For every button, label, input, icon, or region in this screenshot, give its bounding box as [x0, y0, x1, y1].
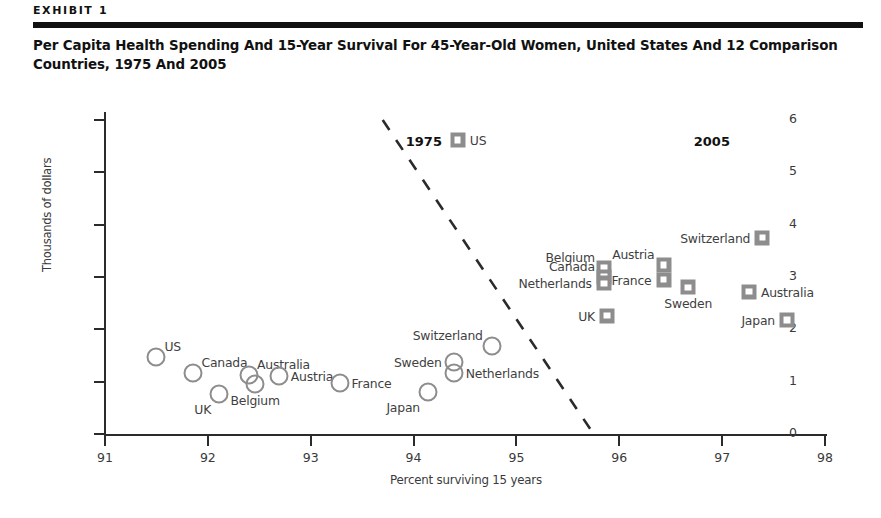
y-tick-0	[94, 433, 105, 435]
x-tick-92	[207, 436, 209, 446]
data-label-1975-austria: Austria	[291, 369, 333, 384]
x-axis-title: Percent surviving 15 years	[390, 473, 542, 487]
data-label-1975-japan: Japan	[386, 400, 420, 415]
x-tick-98	[824, 436, 826, 446]
x-tick-label-96: 96	[611, 450, 627, 465]
data-point-1975-switzerland[interactable]	[482, 336, 501, 355]
data-point-1975-canada[interactable]	[184, 363, 203, 382]
x-tick-label-91: 91	[97, 450, 113, 465]
data-label-2005-us: US	[470, 132, 487, 147]
data-label-1975-uk: UK	[194, 401, 211, 416]
data-label-1975-belgium: Belgium	[230, 393, 279, 408]
data-point-2005-france[interactable]	[656, 272, 671, 287]
y-tick-4	[94, 224, 105, 226]
data-label-1975-netherlands: Netherlands	[466, 366, 539, 381]
data-point-2005-japan[interactable]	[779, 312, 794, 327]
y-tick-5	[94, 171, 105, 173]
x-tick-95	[515, 436, 517, 446]
data-label-2005-canada: Canada	[549, 259, 595, 274]
y-tick-1	[94, 381, 105, 383]
data-point-2005-switzerland[interactable]	[755, 230, 770, 245]
x-tick-label-98: 98	[817, 450, 833, 465]
data-label-2005-netherlands: Netherlands	[519, 276, 592, 291]
data-label-2005-australia: Australia	[761, 284, 814, 299]
x-tick-label-97: 97	[714, 450, 730, 465]
x-tick-97	[721, 436, 723, 446]
data-point-2005-netherlands[interactable]	[596, 276, 611, 291]
data-point-1975-uk[interactable]	[210, 384, 229, 403]
x-tick-label-94: 94	[406, 450, 422, 465]
data-point-2005-uk[interactable]	[599, 308, 614, 323]
data-point-1975-japan[interactable]	[418, 383, 437, 402]
data-label-1975-canada: Canada	[201, 354, 247, 369]
data-label-2005-uk: UK	[578, 308, 595, 323]
y-axis-title: Thousands of dollars	[40, 158, 54, 272]
x-tick-94	[413, 436, 415, 446]
data-point-1975-belgium[interactable]	[246, 375, 265, 394]
data-point-2005-sweden[interactable]	[681, 280, 696, 295]
x-tick-93	[310, 436, 312, 446]
divider-dashed-line	[0, 0, 881, 518]
scatter-chart: 0123456 9192939495969798 Thousands of do…	[0, 0, 881, 518]
x-axis-line	[104, 434, 827, 436]
data-label-2005-japan: Japan	[741, 312, 775, 327]
data-point-1975-france[interactable]	[330, 373, 349, 392]
x-tick-91	[104, 436, 106, 446]
y-axis-line	[104, 112, 106, 436]
data-point-2005-australia[interactable]	[741, 284, 756, 299]
x-tick-96	[618, 436, 620, 446]
x-tick-label-92: 92	[200, 450, 216, 465]
data-label-1975-france: France	[352, 375, 392, 390]
data-label-1975-sweden: Sweden	[394, 355, 442, 370]
data-label-2005-austria: Austria	[612, 246, 654, 261]
data-point-1975-netherlands[interactable]	[444, 364, 463, 383]
y-tick-6	[94, 119, 105, 121]
data-point-2005-austria[interactable]	[656, 257, 671, 272]
data-label-2005-switzerland: Switzerland	[680, 230, 750, 245]
data-label-2005-france: France	[611, 272, 651, 287]
data-label-1975-switzerland: Switzerland	[413, 327, 483, 342]
data-point-1975-us[interactable]	[147, 347, 166, 366]
y-tick-2	[94, 328, 105, 330]
data-label-1975-us: US	[164, 338, 181, 353]
data-point-2005-us[interactable]	[450, 132, 465, 147]
data-label-2005-sweden: Sweden	[664, 296, 712, 311]
y-tick-3	[94, 276, 105, 278]
data-point-1975-austria[interactable]	[269, 367, 288, 386]
x-tick-label-95: 95	[508, 450, 524, 465]
era-caption-2005: 2005	[694, 133, 730, 148]
era-caption-1975: 1975	[406, 133, 442, 148]
x-tick-label-93: 93	[303, 450, 319, 465]
